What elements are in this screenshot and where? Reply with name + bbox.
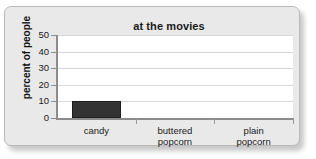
y-tick-label-wrap: 0 [5, 112, 49, 124]
x-axis-label: plainpopcorn [214, 125, 293, 147]
chart-title: at the movies [45, 20, 293, 32]
y-tick-label: 30 [5, 62, 49, 73]
y-tick-label: 40 [5, 46, 49, 57]
y-tick-mark [51, 85, 57, 86]
y-tick-mark [51, 118, 57, 119]
y-tick-label-wrap: 20 [5, 79, 49, 91]
y-tick-label: 50 [5, 29, 49, 40]
chart-screenshot: at the movies percent of people 01020304… [0, 0, 316, 159]
x-tick-mark [136, 119, 137, 124]
y-tick-label-wrap: 30 [5, 62, 49, 74]
y-tick-label: 20 [5, 79, 49, 90]
chart-card: at the movies percent of people 01020304… [4, 6, 300, 146]
gridline [57, 85, 293, 86]
y-tick-label-wrap: 50 [5, 29, 49, 41]
x-axis-label-line: plain [214, 125, 293, 136]
x-axis-label-line: candy [57, 125, 136, 136]
x-axis-label-line: popcorn [214, 136, 293, 147]
x-tick-mark [214, 119, 215, 124]
y-tick-label: 0 [5, 112, 49, 123]
y-tick-mark [51, 52, 57, 53]
x-axis-label-line: buttered [136, 125, 215, 136]
y-axis-line [56, 35, 58, 119]
x-axis-label-line: popcorn [136, 136, 215, 147]
plot-area [57, 35, 293, 118]
y-tick-label-wrap: 40 [5, 46, 49, 58]
y-tick-label-wrap: 10 [5, 95, 49, 107]
x-axis-label: candy [57, 125, 136, 136]
y-tick-label: 10 [5, 95, 49, 106]
y-tick-mark [51, 101, 57, 102]
bar [72, 101, 121, 118]
gridline [57, 52, 293, 53]
gridline [57, 35, 293, 36]
gridline [57, 68, 293, 69]
x-axis-label: butteredpopcorn [136, 125, 215, 147]
x-tick-mark [293, 119, 294, 124]
x-axis-line [56, 118, 294, 120]
y-tick-mark [51, 68, 57, 69]
y-tick-mark [51, 35, 57, 36]
